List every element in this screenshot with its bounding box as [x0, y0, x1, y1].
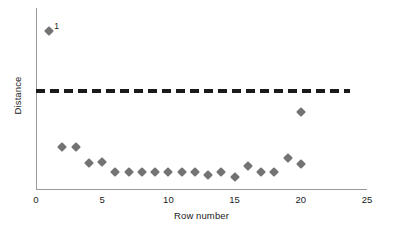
- y-axis-title: Distance: [12, 61, 23, 131]
- data-point: [84, 158, 94, 168]
- data-point-label: 1: [54, 21, 59, 31]
- plot-area: Distance Row number 0510152025 1: [0, 0, 399, 235]
- data-point: [269, 167, 279, 177]
- x-tick-label-5: 5: [89, 194, 115, 205]
- data-point: [58, 142, 68, 152]
- data-point: [110, 168, 120, 178]
- data-point: [190, 168, 200, 178]
- data-point: [163, 167, 173, 177]
- data-point: [283, 153, 293, 163]
- x-axis-title: Row number: [36, 210, 367, 221]
- data-point: [124, 168, 134, 178]
- x-axis-line: [36, 189, 367, 190]
- x-tick-label-10: 10: [155, 194, 181, 205]
- x-tick-label-25: 25: [354, 194, 380, 205]
- data-point: [137, 168, 147, 178]
- data-point: [150, 168, 160, 178]
- threshold-line: [36, 89, 350, 93]
- data-point: [243, 161, 253, 171]
- x-tick-label-20: 20: [288, 194, 314, 205]
- data-point: [296, 159, 306, 169]
- x-tick-label-0: 0: [23, 194, 49, 205]
- data-point: [256, 167, 266, 177]
- data-point: [216, 168, 226, 178]
- x-tick-label-15: 15: [222, 194, 248, 205]
- scatter-chart: Distance Row number 0510152025 1: [0, 0, 399, 235]
- data-point: [203, 170, 213, 180]
- data-point: [97, 158, 107, 168]
- data-point: [177, 167, 187, 177]
- data-point: [230, 172, 240, 182]
- data-point: [44, 26, 54, 36]
- data-point: [296, 107, 306, 117]
- y-axis-line: [36, 8, 37, 190]
- data-point: [71, 142, 81, 152]
